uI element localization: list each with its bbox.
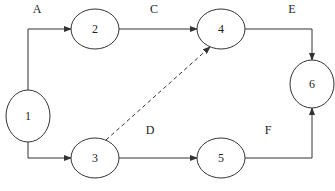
edge-A: [28, 29, 71, 90]
node-label: 3: [92, 151, 98, 165]
edge-label-E: E: [288, 2, 295, 16]
node-label: 4: [218, 22, 224, 36]
node-3: 3: [71, 138, 119, 178]
edge-label-F: F: [265, 123, 272, 137]
node-5: 5: [197, 138, 245, 178]
node-1: 1: [6, 90, 50, 142]
node-label: 2: [92, 22, 98, 36]
edge-E: [245, 29, 312, 60]
node-6: 6: [290, 60, 334, 108]
edge-label-D: D: [146, 123, 155, 137]
edge-label-C: C: [150, 2, 158, 16]
edge-B: [28, 142, 71, 158]
edge-dummy-3-4: [106, 47, 210, 140]
edge-F: [245, 108, 312, 158]
node-label: 5: [218, 151, 224, 165]
node-2: 2: [71, 9, 119, 49]
edge-label-A: A: [33, 2, 42, 16]
node-label: 6: [309, 77, 315, 91]
node-4: 4: [197, 9, 245, 49]
network-diagram: A B C D E F 1 2 3 4 5 6: [0, 0, 335, 191]
node-label: 1: [25, 109, 31, 123]
